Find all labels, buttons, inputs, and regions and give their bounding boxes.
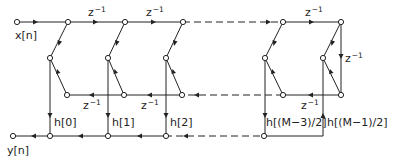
- turn-delay-label: z−1: [345, 51, 363, 65]
- output-node: [10, 133, 15, 138]
- turn-delay-branch: [339, 22, 344, 95]
- top-delay-label-3: z−1: [305, 5, 323, 19]
- bottom-delay-label-1: z−1: [83, 98, 101, 112]
- bottom-delay-label-3: z−1: [301, 98, 319, 112]
- bottom-delay-label-2: z−1: [141, 98, 159, 112]
- top-delay-label-1: z−1: [88, 5, 106, 19]
- input-node: [14, 19, 19, 24]
- coef-hM3: h[(M−3)/2]: [266, 116, 327, 129]
- coef-h1: h[1]: [112, 116, 135, 129]
- coef-hM1: h[(M−1)/2]: [327, 116, 388, 129]
- top-delay-label-2: z−1: [146, 5, 164, 19]
- coef-h0: h[0]: [54, 116, 77, 129]
- labels: x[n] y[n] z−1 z−1 z−1 z−1 z−1 z−1 z−1 h[…: [7, 5, 388, 157]
- output-label: y[n]: [7, 144, 29, 157]
- input-label: x[n]: [15, 29, 37, 42]
- coef-h2: h[2]: [170, 116, 193, 129]
- fir-linear-phase-flow-graph: x[n] y[n] z−1 z−1 z−1 z−1 z−1 z−1 z−1 h[…: [0, 0, 393, 164]
